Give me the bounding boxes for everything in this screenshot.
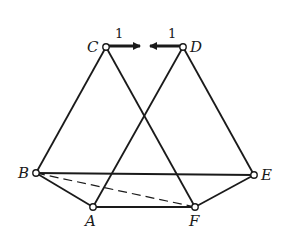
member-cf [106,47,195,207]
member-ba [36,173,93,207]
truss-joints [33,44,257,210]
joint-label-d: D [189,38,202,56]
joint-c [103,44,109,50]
member-de [183,47,254,175]
applied-loads: 11 [108,26,181,46]
joint-label-c: C [87,38,99,56]
member-da [93,47,183,207]
load-label-c: 1 [115,26,123,41]
joint-label-e: E [260,166,272,184]
member-cb [36,47,106,173]
truss-diagram: 11 CDBEAF [0,0,282,245]
joint-a [90,204,96,210]
joint-labels: CDBEAF [17,38,272,230]
joint-f [192,204,198,210]
joint-b [33,170,39,176]
joint-d [180,44,186,50]
joint-label-b: B [17,164,29,182]
member-bf [36,173,195,207]
member-be [36,173,254,175]
truss-members [36,47,254,207]
load-label-d: 1 [168,26,176,41]
joint-e [251,172,257,178]
joint-label-f: F [188,212,200,230]
joint-label-a: A [83,212,96,230]
member-fe [195,175,254,207]
